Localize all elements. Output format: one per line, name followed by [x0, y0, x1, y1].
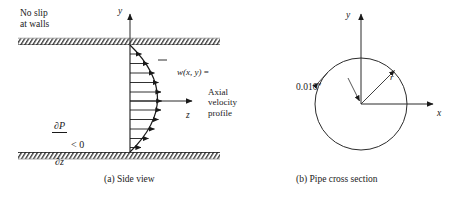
- axis-z-label: z: [186, 110, 190, 121]
- caption-panel-b: (b) Pipe cross section: [296, 174, 378, 184]
- velocity-profile-curve: [130, 45, 158, 152]
- diameter-leader-right: [348, 78, 360, 101]
- pressure-gradient-numerator: ∂P: [52, 121, 67, 133]
- pressure-gradient-fraction: ∂P ∂z: [52, 98, 67, 191]
- velocity-description: Axial velocity profile: [208, 87, 237, 119]
- panel-b-cross-section: [315, 14, 433, 150]
- radius-label: r: [390, 72, 394, 83]
- pressure-gradient-relation: < 0: [71, 139, 84, 151]
- caption-panel-a: (a) Side view: [104, 174, 155, 184]
- velocity-profile-label: w(x, y) = Axial velocity profile: [168, 56, 237, 140]
- axis-y-b-label: y: [346, 10, 350, 21]
- diameter-dimension-label: 0.010″: [296, 82, 321, 93]
- axis-x-label: x: [437, 108, 441, 119]
- axis-y-a-label: y: [118, 6, 122, 17]
- velocity-equals: =: [204, 67, 209, 77]
- pressure-gradient-denominator: ∂z: [52, 156, 67, 167]
- upper-wall: [18, 38, 220, 44]
- pressure-gradient-label: ∂P ∂z < 0: [42, 86, 84, 199]
- no-slip-label: No slip at walls: [20, 8, 49, 30]
- pipe-flow-figure: No slip at walls ∂P ∂z < 0 w(x, y) = Axi…: [0, 0, 461, 199]
- velocity-function: w(x, y): [177, 67, 202, 77]
